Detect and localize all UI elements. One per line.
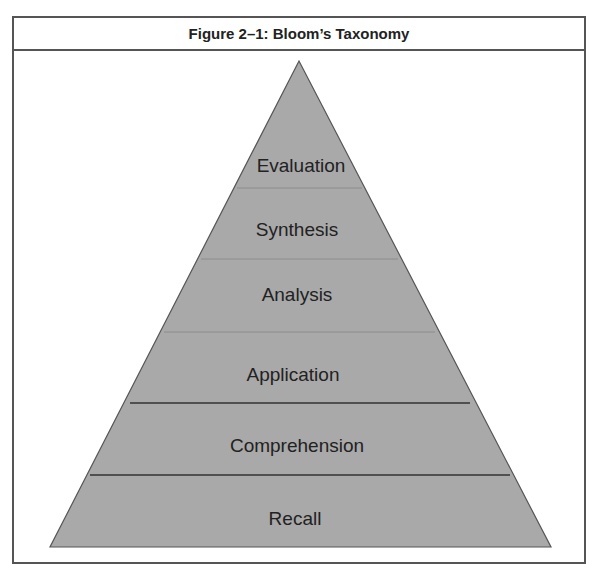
pyramid-diagram: Evaluation Synthesis Analysis Applicatio… (0, 0, 602, 576)
level-recall: Recall (269, 508, 322, 529)
level-application: Application (247, 364, 340, 385)
level-comprehension: Comprehension (230, 435, 364, 456)
level-analysis: Analysis (262, 284, 333, 305)
level-evaluation: Evaluation (257, 155, 346, 176)
level-synthesis: Synthesis (256, 219, 338, 240)
